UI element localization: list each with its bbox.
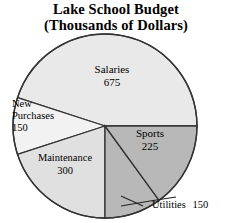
pie-chart-figure: Lake School Budget (Thousands of Dollars… bbox=[0, 0, 232, 223]
slice-label-salaries: Salaries 675 bbox=[70, 63, 154, 88]
slice-label-utilities-value: 150 bbox=[192, 199, 208, 210]
slice-label-new-purchases-name-line2: Purchases bbox=[12, 110, 74, 122]
slice-label-salaries-value: 675 bbox=[70, 76, 154, 89]
slice-label-sports-name: Sports bbox=[122, 127, 178, 140]
slice-label-new-purchases: New Purchases 150 bbox=[12, 98, 74, 134]
slice-label-new-purchases-name-line1: New bbox=[12, 98, 74, 110]
slice-label-sports-value: 225 bbox=[122, 140, 178, 153]
slice-label-utilities-name: Utilities bbox=[152, 199, 186, 210]
slice-label-maintenance: Maintenance 300 bbox=[22, 152, 108, 177]
slice-label-sports: Sports 225 bbox=[122, 127, 178, 152]
slice-label-new-purchases-value: 150 bbox=[12, 122, 74, 134]
slice-label-maintenance-value: 300 bbox=[22, 165, 108, 178]
slice-label-salaries-name: Salaries bbox=[70, 63, 154, 76]
slice-label-utilities: Utilities 150 bbox=[152, 199, 208, 210]
slice-label-maintenance-name: Maintenance bbox=[22, 152, 108, 165]
